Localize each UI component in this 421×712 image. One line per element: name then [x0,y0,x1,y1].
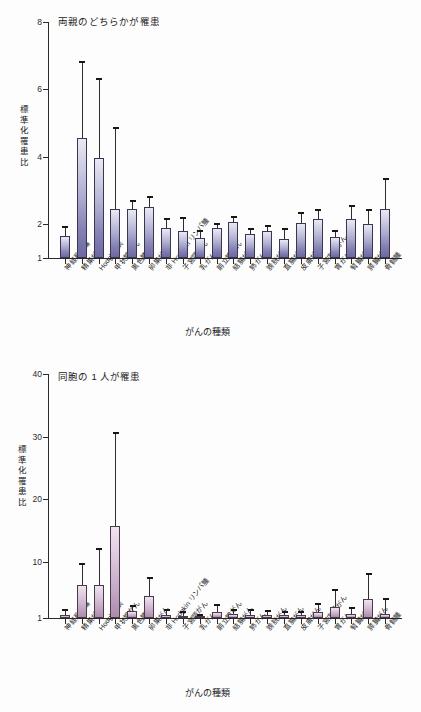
error-bar-cap [248,228,254,230]
error-bar-cap [248,609,254,611]
error-bar-line [82,564,83,585]
error-bar-cap [113,432,119,434]
error-bar-cap [349,205,355,207]
y-tick-mark [43,499,48,500]
bar [161,228,171,258]
error-bar-cap [282,611,288,613]
y-tick-label: 40 [18,369,42,379]
error-bar-line [200,231,201,238]
error-bar-cap [197,614,203,616]
bar [60,236,70,258]
error-bar-cap [298,611,304,613]
error-bar-line [318,210,319,218]
error-bar-cap [113,127,119,129]
error-bar-line [385,599,386,614]
error-bar-line [82,62,83,138]
error-bar-line [385,179,386,209]
figure-page: 両親のどちらかが罹患 標準化罹患比 がんの種類 12468神経系腫瘍精巣がんHo… [0,0,421,712]
y-tick-mark [43,22,48,23]
error-bar-cap [96,78,102,80]
error-bar-line [149,578,150,596]
y-tick-label: 30 [18,432,42,442]
y-tick-mark [43,374,48,375]
error-bar-cap [383,598,389,600]
error-bar-line [318,604,319,612]
bar [330,237,340,258]
bar [178,231,188,258]
y-axis-line [48,374,49,618]
y-tick-mark [43,89,48,90]
error-bar-cap [315,209,321,211]
bar [77,585,87,618]
y-tick-mark [43,224,48,225]
chart-panel-sibling: 同胞の 1 人が罹患 標準化罹患比 がんの種類 110203040神経系腫瘍精巣… [0,356,421,712]
y-tick-mark [43,618,48,619]
error-bar-cap [130,605,136,607]
bar [110,526,120,618]
bar [144,596,154,618]
bar [77,138,87,258]
error-bar-cap [349,607,355,609]
bar [228,222,238,258]
error-bar-cap [231,609,237,611]
y-tick-mark [43,157,48,158]
error-bar-line [301,213,302,223]
error-bar-cap [147,577,153,579]
error-bar-cap [180,611,186,613]
error-bar-line [99,549,100,585]
y-tick-label: 2 [18,219,42,229]
error-bar-line [368,210,369,223]
error-bar-cap [62,609,68,611]
bar [245,234,255,258]
y-tick-mark [43,562,48,563]
bar [262,231,272,258]
bar [94,585,104,618]
error-bar-cap [366,573,372,575]
bar [94,158,104,258]
chart-panel-parents: 両親のどちらかが罹患 標準化罹患比 がんの種類 12468神経系腫瘍精巣がんHo… [0,0,421,356]
error-bar-cap [164,218,170,220]
error-bar-cap [214,223,220,225]
bar [313,219,323,258]
error-bar-cap [180,217,186,219]
error-bar-cap [383,178,389,180]
error-bar-line [166,219,167,228]
error-bar-cap [298,212,304,214]
error-bar-cap [315,603,321,605]
y-tick-label: 8 [18,17,42,27]
bar [127,209,137,258]
error-bar-line [115,433,116,526]
plot-area-top: 12468神経系腫瘍精巣がんHodgkin 病甲状腺がん黒色腫卵巣がん非 Hod… [0,0,421,356]
error-bar-cap [332,589,338,591]
error-bar-cap [265,225,271,227]
error-bar-line [99,79,100,158]
bar [296,223,306,258]
y-tick-label: 1 [18,613,42,623]
plot-area-bottom: 110203040神経系腫瘍精巣がんHodgkin 病甲状腺がん黒色腫卵巣がん非… [0,356,421,712]
error-bar-line [132,201,133,209]
bar [110,209,120,258]
error-bar-cap [130,200,136,202]
error-bar-cap [265,610,271,612]
y-tick-mark [43,437,48,438]
y-tick-label: 4 [18,152,42,162]
error-bar-line [335,590,336,607]
error-bar-line [368,574,369,599]
error-bar-cap [79,563,85,565]
error-bar-line [115,128,116,209]
error-bar-line [284,229,285,239]
y-tick-label: 1 [18,253,42,263]
bar [346,219,356,258]
error-bar-cap [332,230,338,232]
error-bar-line [149,197,150,207]
error-bar-cap [79,61,85,63]
error-bar-cap [147,196,153,198]
error-bar-cap [214,604,220,606]
bar [195,238,205,258]
bar [363,224,373,258]
y-tick-label: 10 [18,557,42,567]
error-bar-cap [366,209,372,211]
bar [279,239,289,258]
y-tick-label: 6 [18,84,42,94]
error-bar-cap [96,548,102,550]
